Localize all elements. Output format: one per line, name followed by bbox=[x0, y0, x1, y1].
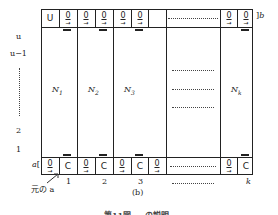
bar-marker bbox=[135, 29, 143, 31]
bottom-cell-zero: 0→ bbox=[150, 160, 164, 173]
row-label-a: a[ bbox=[32, 160, 40, 169]
figure-caption: 第11図 … の説明 bbox=[104, 209, 169, 215]
arrow-right-icon: → bbox=[115, 168, 129, 173]
top-cell-zero: 0→ bbox=[222, 12, 236, 25]
bottom-cell-c: C bbox=[61, 161, 75, 171]
column-index: 1 bbox=[66, 177, 71, 186]
column-index-ellipsis bbox=[172, 183, 214, 184]
column-label-n1: N1 bbox=[52, 85, 63, 96]
ellipsis-line bbox=[172, 89, 214, 90]
ellipsis-line bbox=[172, 70, 214, 71]
row-label: u bbox=[16, 32, 21, 41]
top-cell-zero: 0→ bbox=[116, 12, 130, 25]
top-row-divider bbox=[41, 27, 253, 28]
bottom-cell-zero: 0→ bbox=[79, 160, 93, 173]
arrow-right-icon: → bbox=[222, 20, 236, 25]
cell-divider bbox=[95, 157, 96, 175]
arrow-right-icon: → bbox=[133, 20, 147, 25]
bottom-cell-zero: 0→ bbox=[222, 160, 236, 173]
cell-divider bbox=[131, 157, 132, 175]
top-cell-u: U bbox=[43, 13, 57, 23]
bar-marker bbox=[63, 154, 71, 156]
column-label-nk: Nk bbox=[231, 85, 242, 96]
row-label: 1 bbox=[16, 145, 21, 154]
bar-marker bbox=[135, 154, 143, 156]
column-index-k: k bbox=[246, 177, 251, 186]
cell-divider bbox=[148, 157, 149, 175]
bar-marker bbox=[99, 154, 107, 156]
row-label-ellipsis bbox=[19, 68, 20, 116]
top-cell-zero: 0→ bbox=[79, 12, 93, 25]
bar-marker bbox=[63, 29, 71, 31]
bar-marker bbox=[241, 29, 249, 31]
bottom-cell-c: C bbox=[133, 161, 147, 171]
row-label: 2 bbox=[16, 126, 21, 135]
column-divider bbox=[113, 9, 114, 175]
column-divider bbox=[220, 9, 221, 175]
bottom-row-divider bbox=[41, 157, 253, 158]
row-label: u−1 bbox=[10, 49, 27, 58]
bar-marker bbox=[241, 154, 249, 156]
cell-divider bbox=[148, 9, 149, 27]
arrow-right-icon: → bbox=[222, 168, 236, 173]
column-divider bbox=[166, 9, 167, 175]
arrow-right-icon: → bbox=[116, 20, 130, 25]
column-label-n3: N3 bbox=[124, 85, 135, 96]
cell-divider bbox=[131, 9, 132, 27]
bottom-cell-c: C bbox=[239, 161, 253, 171]
top-row-ellipsis bbox=[168, 18, 218, 19]
cell-divider bbox=[237, 157, 238, 175]
row-label-b: ]b bbox=[256, 11, 264, 20]
arrow-right-icon: → bbox=[239, 20, 253, 25]
origin-annotation: 元の a bbox=[31, 183, 54, 194]
column-index: 3 bbox=[138, 177, 143, 186]
cell-divider bbox=[59, 9, 60, 27]
arrow-right-icon: → bbox=[79, 168, 93, 173]
column-index: 2 bbox=[102, 177, 107, 186]
arrow-right-icon: → bbox=[79, 20, 93, 25]
cell-divider bbox=[95, 9, 96, 27]
column-divider bbox=[77, 9, 78, 175]
ellipsis-line bbox=[172, 107, 214, 108]
panel-label: (b) bbox=[132, 188, 143, 197]
top-cell-zero: 0→ bbox=[97, 12, 111, 25]
bar-marker bbox=[99, 29, 107, 31]
bottom-row-ellipsis bbox=[170, 166, 216, 167]
column-label-n2: N2 bbox=[88, 85, 99, 96]
arrow-right-icon: → bbox=[150, 168, 164, 173]
arrow-right-icon: → bbox=[97, 20, 111, 25]
top-cell-zero: 0→ bbox=[133, 12, 147, 25]
bottom-cell-zero: 0→ bbox=[115, 160, 129, 173]
top-cell-zero: 0→ bbox=[239, 12, 253, 25]
bottom-cell-c: C bbox=[97, 161, 111, 171]
top-cell-zero: 0→ bbox=[61, 12, 75, 25]
arrow-right-icon: → bbox=[61, 20, 75, 25]
cell-divider bbox=[237, 9, 238, 27]
diagram-frame bbox=[41, 9, 253, 175]
